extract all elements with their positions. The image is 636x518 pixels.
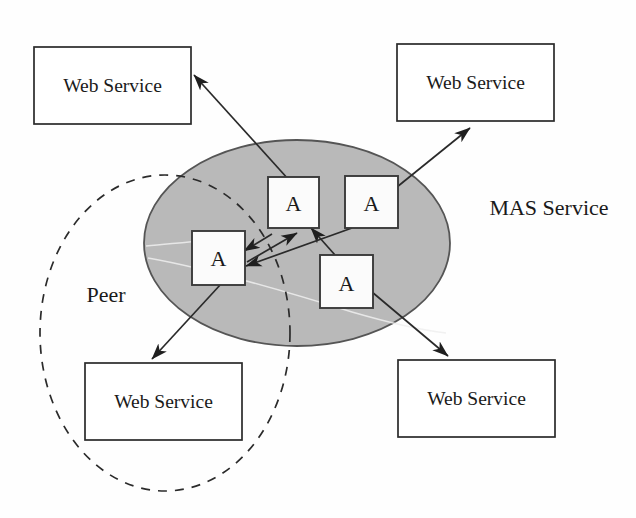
web-service-label: Web Service [426,72,525,93]
web-service-top-right[interactable]: Web Service [397,44,554,121]
agent-left[interactable]: A [192,231,245,285]
web-service-bottom-left[interactable]: Web Service [85,363,242,440]
mas-service-label: MAS Service [489,195,608,220]
agent-label: A [286,191,302,216]
agent-label: A [339,271,355,296]
web-service-label: Web Service [63,75,162,96]
mas-service-ellipse [144,140,450,346]
agent-top-right[interactable]: A [345,176,398,228]
agent-top-mid[interactable]: A [268,177,319,228]
conn-agent-topright-to-ws-topright [397,128,470,187]
agent-label: A [364,191,380,216]
agent-bottom-mid[interactable]: A [320,255,373,308]
web-service-bottom-right[interactable]: Web Service [398,360,555,437]
web-service-top-left[interactable]: Web Service [34,47,191,124]
peer-label: Peer [86,282,126,307]
web-service-label: Web Service [114,391,213,412]
agent-label: A [211,246,227,271]
web-service-label: Web Service [427,388,526,409]
diagram-canvas: Web Service Web Service Web Service Web … [0,0,636,518]
